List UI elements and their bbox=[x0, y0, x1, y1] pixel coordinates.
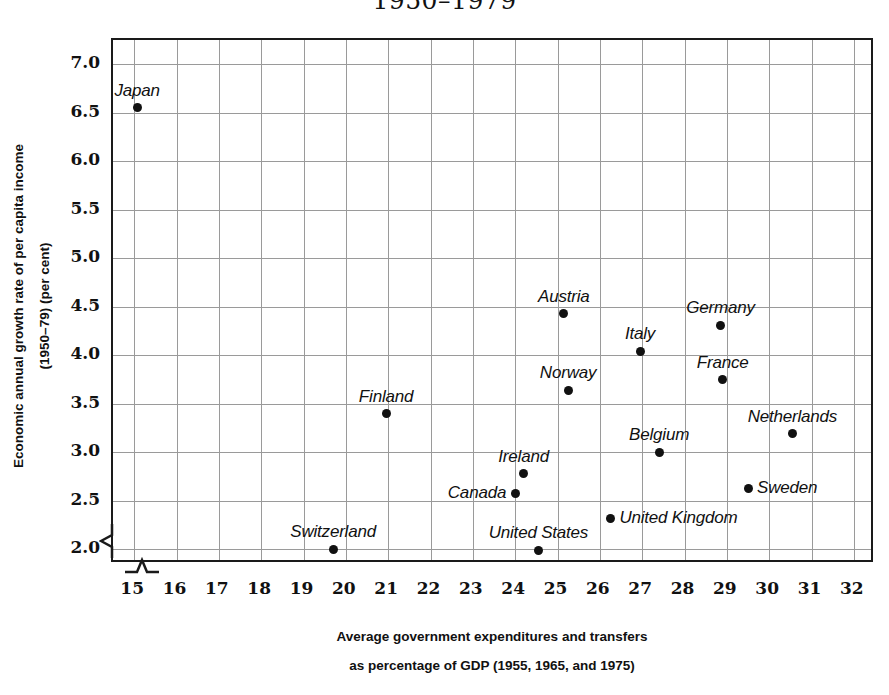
y-axis-title-line-2: (1950–79) (per cent) bbox=[32, 71, 58, 541]
gridline-horizontal bbox=[113, 404, 871, 405]
data-point-label: Germany bbox=[686, 298, 755, 318]
data-point-label: United Kingdom bbox=[619, 508, 737, 528]
data-point bbox=[564, 386, 573, 395]
data-point bbox=[718, 375, 727, 384]
y-tick-label: 2.0 bbox=[70, 537, 100, 557]
y-tick-label: 2.5 bbox=[70, 489, 100, 509]
data-point-label: Italy bbox=[625, 324, 655, 344]
data-point-label: Belgium bbox=[629, 425, 689, 445]
plot-area: JapanAustriaGermanyItalyFranceNorwayFinl… bbox=[113, 40, 871, 560]
data-point-label: United States bbox=[489, 523, 588, 543]
data-point-label: France bbox=[697, 353, 749, 373]
x-axis-title: Average government expenditures and tran… bbox=[111, 622, 873, 680]
data-point bbox=[511, 489, 520, 498]
x-tick-label: 19 bbox=[290, 578, 314, 598]
gridline-horizontal bbox=[113, 307, 871, 308]
gridline-vertical bbox=[600, 40, 601, 560]
data-point-label: Austria bbox=[538, 287, 590, 307]
data-point bbox=[133, 103, 142, 112]
data-point bbox=[559, 309, 568, 318]
gridline-vertical bbox=[346, 40, 347, 560]
x-tick-label: 17 bbox=[205, 578, 229, 598]
data-point bbox=[655, 448, 664, 457]
y-axis-title-line-1: Economic annual growth rate of per capit… bbox=[6, 71, 32, 541]
gridline-vertical bbox=[854, 40, 855, 560]
data-point bbox=[329, 545, 338, 554]
y-tick-label: 7.0 bbox=[70, 52, 100, 72]
data-point bbox=[606, 514, 615, 523]
y-tick-label: 4.0 bbox=[70, 343, 100, 363]
gridline-vertical bbox=[219, 40, 220, 560]
data-point bbox=[788, 429, 797, 438]
data-point bbox=[382, 409, 391, 418]
data-point bbox=[716, 321, 725, 330]
data-point-label: Sweden bbox=[757, 478, 817, 498]
gridline-vertical bbox=[515, 40, 516, 560]
y-axis-break-icon bbox=[99, 524, 125, 558]
data-point-label: Ireland bbox=[498, 447, 549, 467]
x-tick-label: 32 bbox=[840, 578, 864, 598]
data-point-label: Netherlands bbox=[748, 407, 837, 427]
gridline-vertical bbox=[304, 40, 305, 560]
data-point-label: Finland bbox=[359, 387, 413, 407]
x-tick-label: 24 bbox=[501, 578, 525, 598]
data-point-label: Canada bbox=[448, 483, 506, 503]
gridline-vertical bbox=[642, 40, 643, 560]
gridline-vertical bbox=[134, 40, 135, 560]
y-axis-title: Economic annual growth rate of per capit… bbox=[6, 71, 58, 541]
x-tick-label: 25 bbox=[544, 578, 568, 598]
data-point bbox=[636, 347, 645, 356]
x-tick-label: 29 bbox=[713, 578, 737, 598]
gridline-horizontal bbox=[113, 64, 871, 65]
x-axis-break-icon bbox=[125, 548, 159, 574]
x-tick-label: 20 bbox=[332, 578, 356, 598]
gridline-horizontal bbox=[113, 549, 871, 550]
gridline-horizontal bbox=[113, 113, 871, 114]
gridline-horizontal bbox=[113, 452, 871, 453]
y-tick-label: 5.5 bbox=[70, 198, 100, 218]
x-tick-label: 31 bbox=[798, 578, 822, 598]
y-tick-label: 6.5 bbox=[70, 101, 100, 121]
data-point bbox=[744, 484, 753, 493]
x-tick-label: 30 bbox=[755, 578, 779, 598]
x-axis-title-line-2: as percentage of GDP (1955, 1965, and 19… bbox=[111, 651, 873, 680]
gridline-vertical bbox=[177, 40, 178, 560]
x-tick-label: 21 bbox=[374, 578, 398, 598]
x-tick-label: 28 bbox=[671, 578, 695, 598]
gridline-vertical bbox=[388, 40, 389, 560]
plot-frame: JapanAustriaGermanyItalyFranceNorwayFinl… bbox=[111, 38, 873, 562]
x-tick-label: 16 bbox=[163, 578, 187, 598]
y-tick-label: 4.5 bbox=[70, 295, 100, 315]
data-point bbox=[534, 546, 543, 555]
gridline-horizontal bbox=[113, 210, 871, 211]
x-tick-label: 22 bbox=[417, 578, 441, 598]
x-tick-label: 26 bbox=[586, 578, 610, 598]
y-tick-label: 3.0 bbox=[70, 440, 100, 460]
gridline-horizontal bbox=[113, 161, 871, 162]
gridline-horizontal bbox=[113, 355, 871, 356]
data-point-label: Norway bbox=[540, 363, 596, 383]
data-point-label: Switzerland bbox=[290, 522, 376, 542]
gridline-vertical bbox=[431, 40, 432, 560]
x-tick-label: 18 bbox=[247, 578, 271, 598]
gridline-vertical bbox=[261, 40, 262, 560]
y-tick-label: 6.0 bbox=[70, 149, 100, 169]
y-tick-label: 5.0 bbox=[70, 246, 100, 266]
data-point bbox=[519, 469, 528, 478]
x-axis-title-line-1: Average government expenditures and tran… bbox=[111, 622, 873, 651]
gridline-horizontal bbox=[113, 258, 871, 259]
y-tick-label: 3.5 bbox=[70, 392, 100, 412]
x-tick-label: 15 bbox=[120, 578, 144, 598]
chart-title: 1950–1979 bbox=[0, 0, 889, 15]
x-tick-label: 23 bbox=[459, 578, 483, 598]
x-tick-label: 27 bbox=[628, 578, 652, 598]
data-point-label: Japan bbox=[114, 81, 159, 101]
gridline-vertical bbox=[473, 40, 474, 560]
